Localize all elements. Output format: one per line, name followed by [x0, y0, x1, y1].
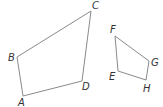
vertex-label-h: H — [143, 83, 151, 94]
vertex-label-f: F — [110, 24, 116, 35]
vertex-label-b: B — [8, 52, 15, 63]
vertex-label-a: A — [17, 97, 25, 107]
vertex-label-c: C — [92, 0, 99, 11]
vertex-label-g: G — [151, 57, 159, 68]
quadrilateral-abcd — [17, 11, 91, 96]
vertex-label-d: D — [82, 81, 90, 92]
vertex-label-e: E — [109, 71, 116, 82]
geometry-diagram: A B C D E F G H — [0, 0, 163, 107]
quadrilateral-efgh — [115, 36, 149, 80]
